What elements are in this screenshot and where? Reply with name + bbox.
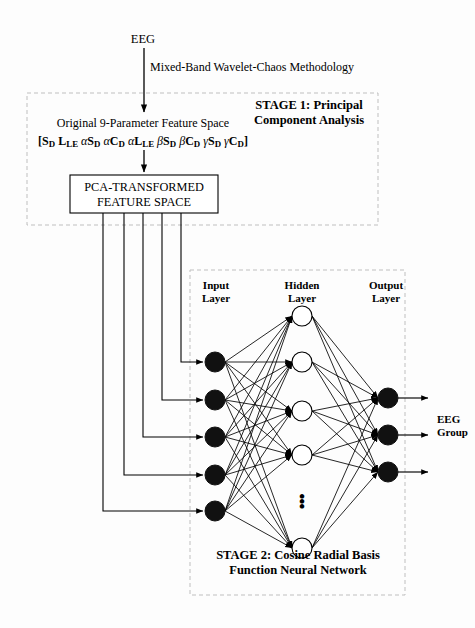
eeg-group-output-label: EEG Group xyxy=(437,413,468,439)
stage1-caption-line2: Component Analysis xyxy=(254,113,364,128)
hidden-layer-label-line2: Layer xyxy=(285,292,320,305)
bus-line-2 xyxy=(162,213,203,400)
bus-line-3 xyxy=(143,213,203,437)
stage2-caption: STAGE 2: Cosine Radial Basis Function Ne… xyxy=(216,548,380,578)
output-node xyxy=(378,425,398,445)
parameter-vector-label: [SD LLE αSD αCD αLLE βSD βCD γSD γCD] xyxy=(38,134,248,149)
hidden-layer-label: Hidden Layer xyxy=(285,279,320,305)
pca-box-label: PCA-TRANSFORMED FEATURE SPACE xyxy=(84,180,204,209)
hidden-node xyxy=(292,352,312,372)
hidden-layer-label-line1: Hidden xyxy=(285,279,320,292)
hidden-output-connections xyxy=(312,316,378,548)
output-node xyxy=(378,462,398,482)
output-layer-nodes xyxy=(378,388,398,482)
bus-line-4 xyxy=(124,213,203,475)
output-layer-label: Output Layer xyxy=(369,279,403,305)
hidden-layer-ellipsis-icon: ••• xyxy=(299,494,305,509)
original-feature-space-label: Original 9-Parameter Feature Space xyxy=(57,116,229,130)
stage2-caption-line1: STAGE 2: Cosine Radial Basis xyxy=(216,548,380,563)
input-node xyxy=(205,501,225,521)
pca-box-line2: FEATURE SPACE xyxy=(84,195,204,210)
input-hidden-connections xyxy=(225,316,292,548)
input-layer-label-line1: Input xyxy=(202,279,230,292)
figure-canvas: EEG Mixed-Band Wavelet-Chaos Methodology… xyxy=(0,0,475,628)
stage2-caption-line2: Function Neural Network xyxy=(216,563,380,578)
hidden-node xyxy=(292,401,312,421)
output-layer-label-line1: Output xyxy=(369,279,403,292)
pca-box-line1: PCA-TRANSFORMED xyxy=(84,180,204,195)
methodology-label: Mixed-Band Wavelet-Chaos Methodology xyxy=(150,60,354,74)
input-node xyxy=(205,465,225,485)
stage1-caption: STAGE 1: Principal Component Analysis xyxy=(254,98,364,128)
eeg-group-line2: Group xyxy=(437,426,468,439)
pca-to-input-bus xyxy=(103,213,203,511)
input-node xyxy=(205,427,225,447)
stage1-caption-line1: STAGE 1: Principal xyxy=(254,98,364,113)
hidden-layer-nodes xyxy=(292,306,312,558)
network-output-arrows xyxy=(398,398,428,472)
hidden-node xyxy=(292,445,312,465)
output-node xyxy=(378,388,398,408)
output-layer-label-line2: Layer xyxy=(369,292,403,305)
input-layer-label-line2: Layer xyxy=(202,292,230,305)
input-node xyxy=(205,390,225,410)
eeg-group-line1: EEG xyxy=(437,413,468,426)
hidden-node xyxy=(292,306,312,326)
input-node xyxy=(205,352,225,372)
diagram-graphics xyxy=(0,0,475,628)
input-layer-label: Input Layer xyxy=(202,279,230,305)
eeg-source-label: EEG xyxy=(131,32,155,47)
input-layer-nodes xyxy=(205,352,225,521)
bus-line-1 xyxy=(181,213,203,362)
